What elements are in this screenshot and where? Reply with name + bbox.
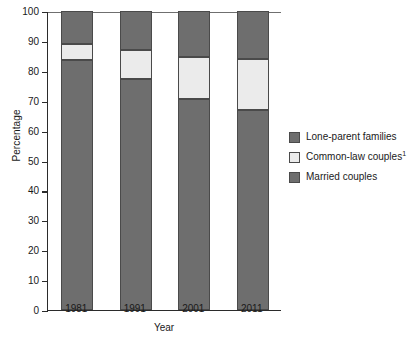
y-tick-label: 70 xyxy=(28,97,39,107)
legend-footnote-marker: 1 xyxy=(402,150,406,157)
legend-item-married-couples[interactable]: Married couples xyxy=(289,171,419,184)
y-tick-label: 90 xyxy=(28,37,39,47)
legend-label-lone-parent-families: Lone-parent families xyxy=(306,131,397,143)
y-tick-label: 40 xyxy=(28,186,39,196)
segment-lone-parent-families xyxy=(237,11,269,59)
x-tick-label-1991: 1991 xyxy=(110,303,160,314)
y-tick-label: 10 xyxy=(28,276,39,286)
y-tick-mark xyxy=(42,102,48,103)
bar-1981 xyxy=(61,11,93,310)
chart-legend: Lone-parent familiesCommon-law couples1M… xyxy=(289,131,419,191)
segment-common-law-couples xyxy=(237,59,269,110)
legend-item-common-law-couples[interactable]: Common-law couples1 xyxy=(289,151,419,164)
y-tick-label: 20 xyxy=(28,246,39,256)
segment-lone-parent-families xyxy=(178,11,210,57)
y-tick-mark xyxy=(42,311,48,312)
y-tick-label: 80 xyxy=(28,67,39,77)
segment-married-couples xyxy=(237,110,269,310)
y-tick-mark xyxy=(42,191,48,192)
y-tick-mark xyxy=(42,132,48,133)
x-tick-label-2011: 2011 xyxy=(227,303,277,314)
bar-1991 xyxy=(120,11,152,310)
legend-item-lone-parent-families[interactable]: Lone-parent families xyxy=(289,131,419,144)
y-tick-label: 50 xyxy=(28,157,39,167)
y-tick-label: 60 xyxy=(28,127,39,137)
y-tick-mark xyxy=(42,72,48,73)
legend-swatch-common-law-couples xyxy=(289,152,300,163)
y-tick-mark xyxy=(42,281,48,282)
segment-common-law-couples xyxy=(178,57,210,99)
y-tick-mark xyxy=(42,162,48,163)
legend-swatch-married-couples xyxy=(289,172,300,183)
y-tick-label: 0 xyxy=(33,306,39,316)
segment-married-couples xyxy=(178,99,210,310)
y-tick-mark xyxy=(42,12,48,13)
x-axis-title: Year xyxy=(47,322,281,333)
y-tick-label: 100 xyxy=(22,7,39,17)
legend-swatch-lone-parent-families xyxy=(289,132,300,143)
segment-common-law-couples xyxy=(120,50,152,79)
segment-married-couples xyxy=(120,79,152,310)
legend-label-common-law-couples: Common-law couples1 xyxy=(306,151,406,163)
x-tick-label-2001: 2001 xyxy=(168,303,218,314)
y-tick-label: 30 xyxy=(28,216,39,226)
segment-common-law-couples xyxy=(61,44,93,60)
bar-2011 xyxy=(237,11,269,310)
y-tick-mark xyxy=(42,221,48,222)
legend-label-married-couples: Married couples xyxy=(306,171,377,183)
stacked-bar-chart: Percentage 0102030405060708090100 198119… xyxy=(0,0,419,342)
bar-2001 xyxy=(178,11,210,310)
y-tick-mark xyxy=(42,251,48,252)
plot-area: 0102030405060708090100 xyxy=(47,12,281,311)
segment-lone-parent-families xyxy=(61,11,93,44)
y-tick-mark xyxy=(42,42,48,43)
y-axis-title: Percentage xyxy=(11,76,22,196)
x-tick-label-1981: 1981 xyxy=(51,303,101,314)
segment-married-couples xyxy=(61,60,93,310)
segment-lone-parent-families xyxy=(120,11,152,50)
